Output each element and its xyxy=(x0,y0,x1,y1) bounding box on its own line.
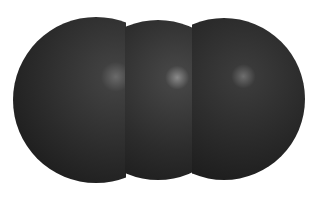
molecule-model xyxy=(0,0,313,204)
molecule-image: Three overlapping dark grey spheres in a… xyxy=(0,0,313,204)
